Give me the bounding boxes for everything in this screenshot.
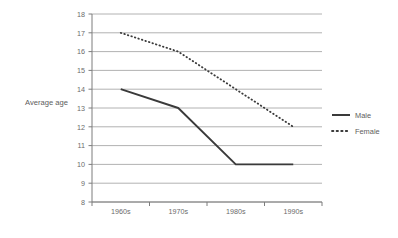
y-tick-label-8: 8: [81, 198, 85, 207]
y-tick-label-13: 13: [77, 104, 85, 113]
y-tick-label-14: 14: [77, 85, 85, 94]
y-axis-title: Average age: [25, 98, 68, 107]
x-label-1990s: 1990s: [283, 207, 303, 216]
legend-label-female: Female: [355, 127, 380, 136]
y-tick-label-17: 17: [77, 29, 85, 38]
x-label-1960s: 1960s: [111, 207, 131, 216]
x-label-1980s: 1980s: [226, 207, 246, 216]
chart-canvas: 18 17 16 15 14 13 12 11 10 9 8 Average a…: [0, 0, 398, 238]
y-tick-label-9: 9: [81, 179, 85, 188]
y-tick-label-11: 11: [78, 141, 85, 150]
legend-label-male: Male: [355, 111, 371, 120]
y-tick-label-10: 10: [77, 160, 85, 169]
line-chart: 18 17 16 15 14 13 12 11 10 9 8 Average a…: [0, 0, 398, 238]
y-tick-label-18: 18: [77, 10, 85, 19]
y-tick-label-15: 15: [77, 66, 85, 75]
y-tick-label-12: 12: [77, 123, 85, 132]
y-tick-label-16: 16: [77, 47, 85, 56]
x-label-1970s: 1970s: [168, 207, 188, 216]
